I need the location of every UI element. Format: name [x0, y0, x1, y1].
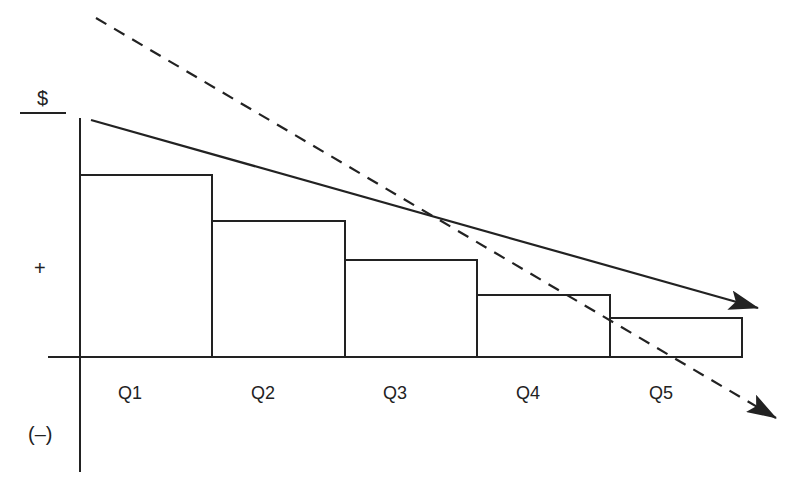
bar-q4	[477, 295, 610, 357]
category-label-q5: Q5	[649, 384, 673, 402]
bar-q5	[610, 318, 742, 357]
category-label-q3: Q3	[383, 384, 407, 402]
bar-q2	[212, 221, 345, 357]
category-label-q2: Q2	[251, 384, 275, 402]
negative-marker: (–)	[28, 424, 52, 444]
bar-q1	[80, 175, 212, 357]
y-axis-label: $	[37, 88, 48, 108]
chart-canvas	[0, 0, 798, 492]
positive-marker: +	[34, 258, 46, 278]
category-label-q1: Q1	[118, 384, 142, 402]
bar-q3	[345, 260, 477, 357]
category-label-q4: Q4	[516, 384, 540, 402]
